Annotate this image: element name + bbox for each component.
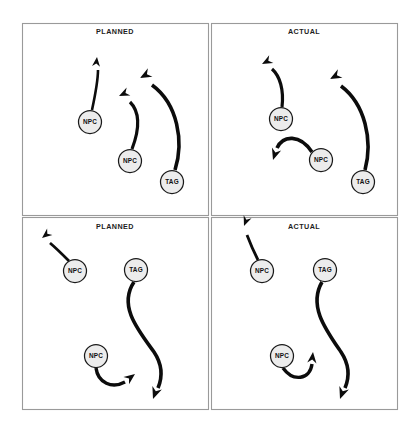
panel-frame: [23, 218, 209, 410]
node-npc-2: NPC: [271, 345, 294, 368]
node-tag-2: TAG: [352, 171, 375, 194]
node-npc-0: NPC: [64, 260, 87, 283]
node-label: NPC: [89, 352, 103, 359]
node-npc-1: NPC: [310, 149, 333, 172]
panel-title: ACTUAL: [288, 27, 320, 36]
node-npc-0: NPC: [79, 111, 102, 134]
node-tag-1: TAG: [125, 259, 148, 282]
node-label: TAG: [356, 178, 370, 185]
node-npc-0: NPC: [270, 108, 293, 131]
node-npc-2: NPC: [85, 345, 108, 368]
panel-top-left: PLANNEDNPCNPCTAG: [23, 24, 209, 216]
panel-frame: [212, 218, 398, 410]
node-label: TAG: [129, 266, 143, 273]
node-label: NPC: [123, 157, 137, 164]
panel-title: PLANNED: [96, 222, 134, 231]
panel-title: PLANNED: [96, 27, 134, 36]
node-npc-0: NPC: [251, 260, 274, 283]
panel-title: ACTUAL: [288, 222, 320, 231]
node-label: NPC: [68, 267, 82, 274]
node-label: TAG: [165, 178, 179, 185]
node-label: TAG: [318, 266, 332, 273]
node-label: NPC: [255, 267, 269, 274]
node-label: NPC: [83, 118, 97, 125]
node-tag-2: TAG: [161, 171, 184, 194]
panel-bottom-right: ACTUALNPCTAGNPC: [212, 215, 398, 409]
node-npc-1: NPC: [119, 150, 142, 173]
node-label: NPC: [314, 156, 328, 163]
panel-top-right: ACTUALNPCNPCTAG: [212, 24, 398, 216]
panel-bottom-left: PLANNEDNPCTAGNPC: [23, 218, 209, 410]
trajectory-figure: PLANNEDNPCNPCTAGACTUALNPCNPCTAGPLANNEDNP…: [0, 0, 414, 430]
node-label: NPC: [274, 115, 288, 122]
figure-canvas: PLANNEDNPCNPCTAGACTUALNPCNPCTAGPLANNEDNP…: [0, 0, 414, 430]
node-label: NPC: [275, 352, 289, 359]
node-tag-1: TAG: [314, 259, 337, 282]
